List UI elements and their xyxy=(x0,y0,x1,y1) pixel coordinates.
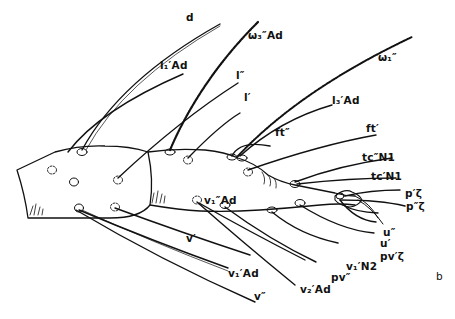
label-omega1: ω₁″ xyxy=(378,52,397,63)
hair-tuft-joint xyxy=(152,191,165,203)
socket xyxy=(48,166,57,174)
panel-label: b xyxy=(436,271,443,282)
label-omega3-Ad: ω₃″Ad xyxy=(248,30,283,41)
seta-l1-Ad xyxy=(68,74,183,152)
label-v1-N2: v₁′N2 xyxy=(346,261,377,272)
label-v2-Ad: v₂′Ad xyxy=(300,284,331,295)
segment-distal-lower-outline xyxy=(150,204,355,211)
label-v1-Ad: v₁′Ad xyxy=(228,268,259,279)
seta-p-dprime xyxy=(340,200,405,206)
seta-pv-dprime xyxy=(225,207,316,262)
hair-tuft-distal xyxy=(262,172,276,188)
seta-v-prime xyxy=(115,208,250,255)
label-pv-dprime: pv″ xyxy=(331,272,351,283)
label-v-prime: v′ xyxy=(186,233,196,244)
label-u-dprime: u″ xyxy=(383,227,396,238)
label-l-prime: l′ xyxy=(244,92,251,103)
segment-proximal-outline xyxy=(17,146,152,218)
leg-setae-diagram: d l₁′Ad ω₃″Ad l″ l′ ω₁″ l₃′Ad ft″ ft′ tc… xyxy=(0,0,455,319)
seta-omega3-Ad xyxy=(170,22,258,150)
seta-v2-Ad xyxy=(199,203,305,260)
label-p-dprime-zeta: p″ζ xyxy=(406,201,425,212)
label-pv-prime-zeta: pv′ζ xyxy=(380,251,404,262)
label-l3-Ad: l₃′Ad xyxy=(332,95,360,106)
label-v-dprime: v″ xyxy=(254,291,266,302)
label-u-prime: u′ xyxy=(380,238,391,249)
label-p-prime-zeta: p′ζ xyxy=(405,188,422,199)
label-d: d xyxy=(186,12,194,23)
seta-d xyxy=(82,24,220,150)
label-v1-dprime-Ad: v₁″Ad xyxy=(204,195,237,206)
seta-v-dprime xyxy=(76,210,255,302)
seta-v1-N2 xyxy=(272,212,338,243)
socket xyxy=(70,178,79,186)
label-l1-Ad: l₁′Ad xyxy=(160,60,188,71)
label-l-dprime: l″ xyxy=(236,70,245,81)
label-tc-dprime-N1: tc″N1 xyxy=(362,152,395,163)
label-tc-prime-N1: tc′N1 xyxy=(371,171,402,182)
hair-tuft-proximal xyxy=(30,204,43,215)
label-ft-dprime: ft″ xyxy=(275,127,290,138)
label-ft-prime: ft′ xyxy=(366,123,379,134)
